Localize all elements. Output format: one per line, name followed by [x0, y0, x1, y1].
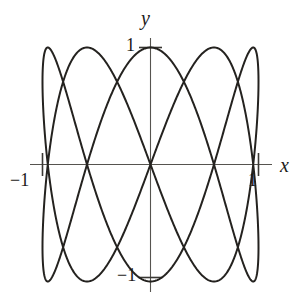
tick-label-x-positive-one: 1	[248, 171, 257, 189]
tick-label-x-negative-one: −1	[10, 171, 29, 189]
tick-label-y-positive-one: 1	[126, 36, 135, 54]
lissajous-figure	[0, 0, 301, 298]
x-axis-label: x	[280, 155, 289, 175]
y-axis-label: y	[141, 8, 150, 28]
tick-label-y-negative-one: −1	[117, 266, 136, 284]
